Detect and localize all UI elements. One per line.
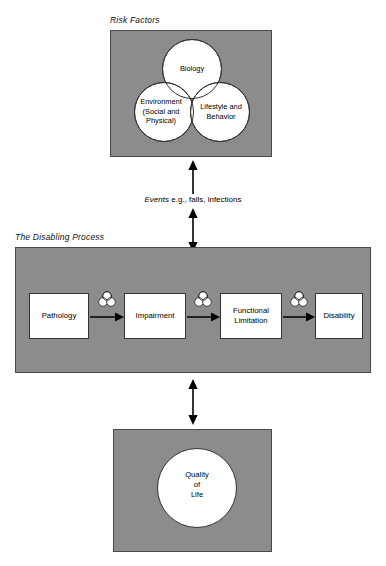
- process-step-pathology: Pathology: [29, 293, 89, 339]
- quality-of-life-panel: Quality of Life: [113, 429, 272, 552]
- arrow-pathology-to-impairment: [90, 311, 124, 323]
- events-caption: Events e.g., falls, infections: [0, 195, 386, 204]
- arrow-events-to-risk-factors: [184, 160, 202, 194]
- arrow-process-to-quality-of-life: [184, 379, 202, 425]
- disabling-process-panel: Pathology Impairment Functional Limitati…: [15, 247, 371, 373]
- arrow-functional-limitation-to-disability: [283, 311, 315, 323]
- disabling-process-label: The Disabling Process: [15, 232, 104, 242]
- venn-label-lifestyle: Lifestyle and Behavior: [192, 102, 250, 121]
- venn-icon-impairment-functional-limitation: [194, 291, 212, 307]
- risk-factors-label: Risk Factors: [110, 15, 160, 25]
- venn-label-biology: Biology: [162, 64, 222, 74]
- venn-label-environment: Environment (Social and Physical): [130, 97, 192, 126]
- venn-icon-pathology-impairment: [98, 291, 116, 307]
- events-rest: e.g., falls, infections: [169, 195, 241, 204]
- quality-of-life-label: Quality of Life: [157, 470, 237, 500]
- process-step-disability: Disability: [315, 293, 363, 339]
- risk-factors-panel: Biology Environment (Social and Physical…: [110, 30, 272, 157]
- arrow-impairment-to-functional-limitation: [187, 311, 220, 323]
- diagram-canvas: Risk Factors Biology Environment (Social…: [0, 0, 386, 566]
- venn-icon-functional-limitation-disability: [290, 291, 308, 307]
- arrow-process-to-events: [184, 208, 202, 252]
- process-step-functional-limitation: Functional Limitation: [220, 293, 282, 339]
- risk-factors-venn: Biology Environment (Social and Physical…: [111, 31, 271, 156]
- events-emphasis: Events: [145, 195, 169, 204]
- process-step-impairment: Impairment: [124, 293, 186, 339]
